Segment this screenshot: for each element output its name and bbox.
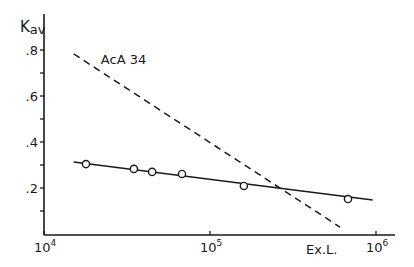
y-tick-label: .2 (26, 181, 38, 196)
axes (44, 14, 395, 235)
y-axis-label: Kav (20, 18, 46, 37)
y-tick-label: .6 (26, 89, 38, 104)
annotation-label: AcA 34 (101, 52, 146, 67)
annotations: AcA 34 (101, 52, 146, 67)
series-line-aca34 (74, 54, 340, 227)
x-tick-label: 104 (34, 238, 57, 255)
data-point (82, 160, 89, 167)
series-lines (74, 54, 373, 227)
data-point (149, 168, 156, 175)
y-tick-label: .4 (26, 135, 38, 150)
x-tick-label: 105 (200, 238, 222, 255)
x-tick-label: 106 (366, 238, 389, 255)
y-ticks: .2.4.6.8 (26, 43, 44, 211)
y-axis-label-sub: av (30, 22, 46, 37)
data-point (344, 195, 351, 202)
chart: .2.4.6.8 104105106 Kav Ex.L. AcA 34 (0, 0, 414, 267)
data-point (130, 165, 137, 172)
y-tick-label: .8 (26, 43, 38, 58)
data-point (178, 170, 185, 177)
x-axis-label: Ex.L. (306, 242, 337, 257)
data-point (240, 182, 247, 189)
series-line-fit (74, 162, 373, 200)
series-points (82, 160, 351, 202)
